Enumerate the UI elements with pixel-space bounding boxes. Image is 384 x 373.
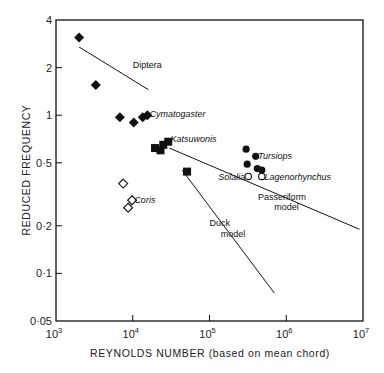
annotation-solalia: Solalia	[218, 172, 245, 182]
filled-square-marker	[183, 168, 191, 176]
annotation-cymatogaster: Cymatogaster	[149, 109, 206, 119]
x-tick-label: 103	[46, 326, 62, 340]
open-circle-marker	[245, 173, 251, 179]
y-tick-label: 4	[46, 14, 52, 26]
x-tick-label: 105	[199, 326, 215, 340]
annotation-tursiops: Tursiops	[258, 151, 292, 161]
annotation-lagenorhynchus: Lagenorhynchus	[264, 172, 331, 182]
open-diamond-marker	[119, 179, 128, 188]
y-tick-label: 0·2	[36, 220, 52, 232]
annotation-diptera: Diptera	[133, 60, 162, 70]
y-tick-label: 0·05	[30, 315, 52, 327]
x-axis-label: REYNOLDS NUMBER (based on mean chord)	[90, 347, 330, 359]
plot-frame	[56, 20, 363, 321]
y-tick-label: 0·5	[36, 157, 52, 169]
annotation-model: model	[221, 229, 246, 239]
chart: 4210·50·20·10·05 103104105106107 Diptera…	[0, 0, 384, 373]
y-tick-label: 0·1	[36, 267, 52, 279]
x-tick-label: 104	[123, 326, 139, 340]
y-tick-label: 1	[46, 109, 52, 121]
filled-diamond-marker	[91, 80, 101, 90]
y-tick-label: 2	[46, 62, 52, 74]
data-points	[74, 33, 265, 213]
y-axis-label: REDUCED FREQUENCY	[20, 105, 32, 236]
annotation-duck: Duck	[210, 218, 231, 228]
y-axis-ticks: 4210·50·20·10·05	[30, 14, 62, 327]
annotation-katsuwonis: Katsuwonis	[170, 134, 217, 144]
filled-diamond-marker	[129, 117, 139, 127]
filled-diamond-marker	[115, 112, 125, 122]
x-tick-label: 106	[276, 326, 292, 340]
filled-circle-marker	[244, 161, 251, 168]
annotation-coris: Coris	[134, 195, 156, 205]
x-tick-label: 107	[353, 326, 369, 340]
filled-circle-marker	[243, 146, 250, 153]
x-axis-ticks: 103104105106107	[46, 315, 369, 340]
model-lines	[79, 47, 359, 293]
annotation-passeriform: Passeriform	[258, 192, 306, 202]
annotation-model: model	[274, 202, 299, 212]
filled-diamond-marker	[74, 33, 84, 43]
plot-border	[56, 20, 363, 321]
